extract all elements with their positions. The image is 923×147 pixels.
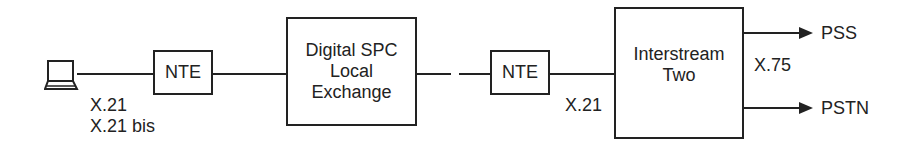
interstream-label: Interstream Two <box>633 44 724 86</box>
arrow-pstn-shaft <box>743 107 801 109</box>
nte-box-1: NTE <box>153 50 213 95</box>
terminal-icon <box>44 60 80 92</box>
nte-label-2: NTE <box>502 62 538 83</box>
interstream-box: Interstream Two <box>614 7 744 139</box>
arrow-pss-shaft <box>743 32 801 34</box>
local-exchange-box: Digital SPC Local Exchange <box>286 17 417 126</box>
link-terminal-nte1 <box>77 73 154 75</box>
link-break <box>451 72 459 76</box>
interstream-interface-label: X.75 <box>754 55 791 76</box>
terminal-interface-label: X.21 X.21 bis <box>90 95 155 137</box>
pss-label: PSS <box>821 23 857 44</box>
arrow-right-icon <box>799 27 813 39</box>
nte2-interface-label: X.21 <box>565 95 602 116</box>
arrow-right-icon <box>799 102 813 114</box>
local-exchange-label: Digital SPC Local Exchange <box>305 40 397 103</box>
nte-label-1: NTE <box>165 62 201 83</box>
link-nte1-exchange <box>212 73 287 75</box>
pstn-label: PSTN <box>821 98 869 119</box>
nte-box-2: NTE <box>490 50 550 95</box>
link-nte2-interstream <box>549 73 615 75</box>
